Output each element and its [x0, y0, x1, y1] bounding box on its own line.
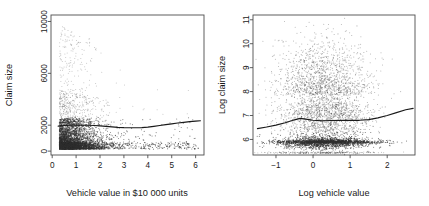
data-point — [338, 144, 339, 145]
data-point — [349, 131, 350, 132]
data-point — [340, 71, 341, 72]
data-point — [341, 115, 342, 116]
data-point — [68, 141, 69, 142]
data-point — [73, 127, 74, 128]
data-point — [354, 135, 355, 136]
data-point — [355, 94, 356, 95]
data-point — [322, 146, 323, 147]
data-point — [346, 76, 347, 77]
data-point — [65, 136, 66, 137]
y-tick-label: 10000 — [40, 10, 49, 33]
data-point — [71, 129, 72, 130]
data-point — [327, 91, 328, 92]
data-point — [94, 123, 95, 124]
data-point — [358, 106, 359, 107]
data-point — [326, 112, 327, 113]
x-tick-label: 2 — [385, 161, 390, 170]
data-point — [74, 101, 75, 102]
data-point — [334, 146, 335, 147]
data-point — [179, 131, 180, 132]
data-point — [310, 141, 311, 142]
data-point — [282, 41, 283, 42]
data-point — [355, 112, 356, 113]
data-point — [315, 107, 316, 108]
data-point — [338, 141, 339, 142]
data-point — [335, 102, 336, 103]
data-point — [291, 117, 292, 118]
data-point — [293, 143, 294, 144]
data-point — [325, 93, 326, 94]
data-point — [296, 112, 297, 113]
data-point — [349, 115, 350, 116]
data-point — [304, 127, 305, 128]
data-point — [358, 48, 359, 49]
data-point — [66, 133, 67, 134]
data-point — [345, 83, 346, 84]
data-point — [317, 122, 318, 123]
data-point — [315, 115, 316, 116]
data-point — [88, 98, 89, 99]
data-point — [128, 139, 129, 140]
data-point — [313, 101, 314, 102]
data-point — [321, 130, 322, 131]
data-point — [356, 138, 357, 139]
data-point — [288, 141, 289, 142]
data-point — [315, 89, 316, 90]
data-point — [276, 137, 277, 138]
data-point — [367, 71, 368, 72]
data-point — [159, 148, 160, 149]
data-point — [60, 106, 61, 107]
data-point — [322, 41, 323, 42]
data-point — [130, 123, 131, 124]
data-point — [299, 114, 300, 115]
data-point — [72, 115, 73, 116]
data-point — [324, 108, 325, 109]
data-point — [267, 124, 268, 125]
data-point — [356, 118, 357, 119]
data-point — [326, 79, 327, 80]
data-point — [322, 144, 323, 145]
data-point — [288, 144, 289, 145]
data-point — [374, 111, 375, 112]
data-point — [107, 104, 108, 105]
data-point — [65, 119, 66, 120]
data-point — [285, 139, 286, 140]
data-point — [332, 48, 333, 49]
data-point — [69, 65, 70, 66]
data-point — [106, 145, 107, 146]
data-point — [328, 85, 329, 86]
data-point — [332, 146, 333, 147]
data-point — [367, 88, 368, 89]
data-point — [380, 70, 381, 71]
data-point — [273, 152, 274, 153]
data-point — [297, 78, 298, 79]
data-point — [360, 36, 361, 37]
data-point — [64, 94, 65, 95]
data-point — [315, 92, 316, 93]
data-point — [59, 42, 60, 43]
data-point — [286, 80, 287, 81]
data-point — [106, 135, 107, 136]
data-point — [352, 78, 353, 79]
data-point — [358, 100, 359, 101]
data-point — [272, 120, 273, 121]
data-point — [86, 141, 87, 142]
data-point — [67, 79, 68, 80]
data-point — [327, 130, 328, 131]
data-point — [303, 76, 304, 77]
data-point — [350, 128, 351, 129]
data-point — [81, 121, 82, 122]
data-point — [313, 94, 314, 95]
data-point — [284, 144, 285, 145]
data-point — [88, 115, 89, 116]
data-point — [69, 119, 70, 120]
data-point — [322, 73, 323, 74]
data-point — [327, 101, 328, 102]
data-point — [73, 116, 74, 117]
data-point — [65, 46, 66, 47]
data-point — [343, 94, 344, 95]
data-point — [371, 93, 372, 94]
data-point — [338, 147, 339, 148]
data-point — [336, 146, 337, 147]
data-point — [76, 122, 77, 123]
